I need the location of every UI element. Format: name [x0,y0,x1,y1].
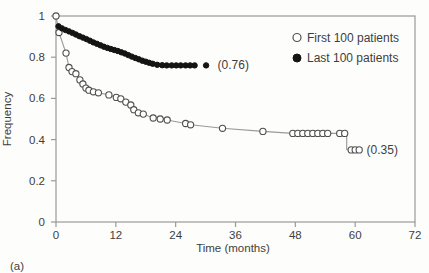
x-axis-title: Time (months) [196,242,270,254]
legend-label-first-100: First 100 patients [307,31,399,45]
panel-label: (a) [10,260,24,272]
x-tick-label: 24 [169,229,182,241]
open-data-point [150,115,156,121]
annotation-last-100: (0.76) [218,58,249,72]
x-tick-label: 0 [53,229,59,241]
filled-data-point [203,63,208,68]
open-data-point [342,130,348,136]
open-data-point [219,125,225,131]
x-tick-label: 72 [409,229,422,241]
survival-figure: 012243648607200.20.40.60.81 Frequency Ti… [0,0,429,273]
open-data-point [63,50,69,56]
open-data-point [140,111,146,117]
open-data-point [157,116,163,122]
y-axis-title: Frequency [1,92,13,147]
filled-data-point [192,63,197,68]
y-tick-label: 0.4 [29,134,46,146]
x-tick-label: 12 [109,229,122,241]
open-data-point [188,122,194,128]
filled-circle-icon [293,54,301,62]
survival-chart: 012243648607200.20.40.60.81 Frequency Ti… [0,0,429,273]
y-tick-label: 0.6 [29,92,45,104]
x-tick-label: 48 [289,229,302,241]
legend-label-last-100: Last 100 patients [307,51,398,65]
open-circle-icon [293,34,301,42]
y-tick-label: 1 [39,10,45,22]
open-data-point [53,13,59,19]
open-data-point [325,130,331,136]
open-data-point [356,147,362,153]
y-tick-label: 0.2 [29,175,45,187]
series-line-last-100 [59,26,195,65]
open-data-point [260,128,266,134]
open-data-point [95,90,101,96]
legend: First 100 patients Last 100 patients [293,31,399,66]
open-data-point [164,117,170,123]
x-tick-label: 60 [349,229,362,241]
open-data-point [73,71,79,77]
open-data-point [106,92,112,98]
y-tick-label: 0.8 [29,51,45,63]
x-tick-label: 36 [229,229,242,241]
y-tick-label: 0 [39,216,45,228]
annotation-first-100: (0.35) [367,143,398,157]
